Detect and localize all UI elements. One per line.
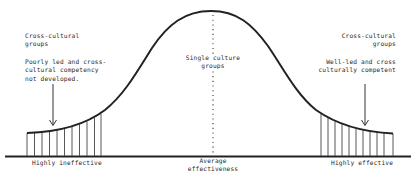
axis-label-right: Highly effective — [331, 159, 393, 167]
axis-label-left: Highly ineffective — [32, 159, 102, 167]
left-description-line-2: cultural competency — [25, 66, 106, 74]
left-group-description: Poorly led and cross- cultural competenc… — [25, 58, 106, 83]
left-group-title-line-1: Cross-cultural — [25, 32, 79, 40]
axis-center-line-2: effectiveness — [183, 165, 243, 173]
left-group-title: Cross-cultural groups — [25, 32, 79, 49]
right-description-line-2: culturally competent — [318, 66, 396, 74]
left-group-title-line-2: groups — [25, 40, 79, 48]
left-arrow-icon — [50, 84, 57, 126]
axis-center-line-1: Average — [183, 157, 243, 165]
bell-curve-diagram — [0, 0, 416, 183]
right-group-title-line-1: Cross-cultural — [342, 32, 396, 40]
right-group-description: Well-led and cross culturally competent — [318, 58, 396, 75]
right-arrow-icon — [362, 84, 369, 126]
center-group-label: Single culture groups — [183, 54, 243, 71]
left-description-line-1: Poorly led and cross- — [25, 58, 106, 66]
right-description-line-1: Well-led and cross — [318, 58, 396, 66]
right-group-title-line-2: groups — [342, 40, 396, 48]
center-label-line-2: groups — [183, 62, 243, 70]
left-description-line-3: not developed. — [25, 75, 106, 83]
center-label-line-1: Single culture — [183, 54, 243, 62]
axis-label-center: Average effectiveness — [183, 157, 243, 174]
right-group-title: Cross-cultural groups — [342, 32, 396, 49]
